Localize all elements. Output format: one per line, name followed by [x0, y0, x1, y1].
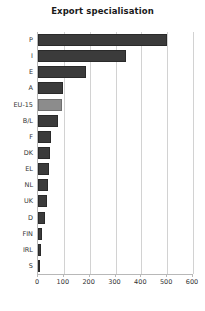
bar-d[interactable] [38, 212, 45, 224]
bar-row[interactable] [38, 34, 193, 46]
y-label-dk: DK [0, 149, 33, 157]
gridline-600 [193, 32, 194, 274]
bar-a[interactable] [38, 82, 63, 94]
bar-row[interactable] [38, 50, 193, 62]
x-tick-label-100: 100 [57, 278, 69, 286]
bar-row[interactable] [38, 179, 193, 191]
bar-row[interactable] [38, 131, 193, 143]
bar-e[interactable] [38, 66, 86, 78]
bar-row[interactable] [38, 115, 193, 127]
x-tick-mark-100 [63, 274, 64, 277]
y-label-fin: FIN [0, 230, 33, 238]
bar-s[interactable] [38, 260, 40, 272]
bar-eu-15[interactable] [38, 99, 62, 111]
y-label-uk: UK [0, 197, 33, 205]
y-label-e: E [0, 68, 33, 76]
bar-row[interactable] [38, 163, 193, 175]
x-tick-label-600: 600 [186, 278, 198, 286]
x-tick-label-0: 0 [35, 278, 39, 286]
y-label-b-l: B/L [0, 117, 33, 125]
x-tick-mark-0 [37, 274, 38, 277]
bar-row[interactable] [38, 99, 193, 111]
bar-dk[interactable] [38, 147, 50, 159]
bar-i[interactable] [38, 50, 126, 62]
bar-row[interactable] [38, 66, 193, 78]
x-axis-ticks: 0100200300400500600 [0, 274, 205, 300]
y-label-d: D [0, 214, 33, 222]
chart-container: Export specialisation PIEAEU-15B/LFDKELN… [0, 0, 205, 311]
x-tick-mark-300 [115, 274, 116, 277]
y-label-nl: NL [0, 181, 33, 189]
x-tick-mark-200 [89, 274, 90, 277]
y-label-p: P [0, 36, 33, 44]
y-label-i: I [0, 52, 33, 60]
x-tick-mark-600 [192, 274, 193, 277]
x-tick-label-500: 500 [160, 278, 172, 286]
x-tick-label-200: 200 [82, 278, 94, 286]
bar-fin[interactable] [38, 228, 42, 240]
bar-row[interactable] [38, 228, 193, 240]
bar-row[interactable] [38, 147, 193, 159]
x-tick-label-400: 400 [134, 278, 146, 286]
y-label-s: S [0, 262, 33, 270]
bar-nl[interactable] [38, 179, 48, 191]
bar-series [38, 32, 192, 274]
y-label-eu-15: EU-15 [0, 101, 33, 109]
bar-uk[interactable] [38, 195, 47, 207]
y-axis-category-labels: PIEAEU-15B/LFDKELNLUKDFINIRLS [0, 32, 33, 274]
plot-area [37, 32, 192, 274]
chart-title: Export specialisation [0, 6, 205, 16]
bar-p[interactable] [38, 34, 167, 46]
bar-el[interactable] [38, 163, 49, 175]
x-tick-mark-400 [140, 274, 141, 277]
y-label-f: F [0, 133, 33, 141]
x-tick-mark-500 [166, 274, 167, 277]
y-label-el: EL [0, 165, 33, 173]
bar-row[interactable] [38, 212, 193, 224]
y-label-irl: IRL [0, 246, 33, 254]
bar-f[interactable] [38, 131, 51, 143]
bar-row[interactable] [38, 244, 193, 256]
bar-row[interactable] [38, 260, 193, 272]
bar-b-l[interactable] [38, 115, 58, 127]
x-tick-label-300: 300 [108, 278, 120, 286]
y-label-a: A [0, 84, 33, 92]
bar-row[interactable] [38, 195, 193, 207]
bar-row[interactable] [38, 82, 193, 94]
bar-irl[interactable] [38, 244, 41, 256]
